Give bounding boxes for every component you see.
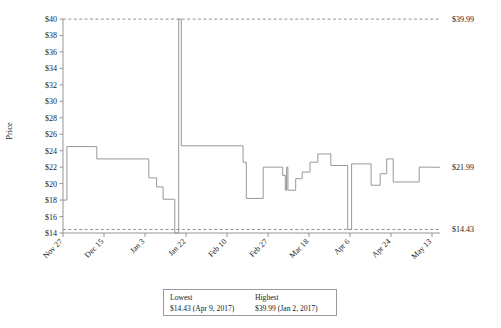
y-tick-label: $38 xyxy=(45,31,57,40)
side-value-labels: $39.99$14.43$21.99 xyxy=(452,15,474,234)
legend-highest-label: Highest xyxy=(255,292,318,303)
x-tick-label: Mar 18 xyxy=(288,237,311,260)
legend-lowest: Lowest $14.43 (Apr 9, 2017) xyxy=(170,292,234,314)
y-tick-label: $14 xyxy=(45,229,57,238)
chart-canvas: $14$16$18$20$22$24$26$28$30$32$34$36$38$… xyxy=(0,0,501,328)
x-tick-label: Feb 27 xyxy=(247,237,269,259)
y-tick-label: $30 xyxy=(45,97,57,106)
x-tick-label: Feb 10 xyxy=(206,237,228,259)
y-tick-label: $22 xyxy=(45,163,57,172)
y-axis-ticks: $14$16$18$20$22$24$26$28$30$32$34$36$38$… xyxy=(45,15,63,238)
legend-lowest-label: Lowest xyxy=(170,292,234,303)
y-tick-label: $34 xyxy=(45,64,57,73)
summary-legend-box: Lowest $14.43 (Apr 9, 2017) Highest $39.… xyxy=(163,289,337,316)
x-tick-label: Apr 24 xyxy=(370,237,392,259)
y-axis-title: Price xyxy=(4,122,14,140)
y-tick-label: $28 xyxy=(45,114,57,123)
x-tick-label: Dec 15 xyxy=(83,237,106,260)
x-tick-label: Jan 3 xyxy=(128,237,146,255)
x-tick-label: May 13 xyxy=(410,237,434,261)
legend-highest: Highest $39.99 (Jan 2, 2017) xyxy=(255,292,318,314)
x-tick-label: Jan 22 xyxy=(166,237,187,258)
y-tick-label: $20 xyxy=(45,180,57,189)
x-tick-label: Nov 27 xyxy=(41,237,64,260)
price-chart: $14$16$18$20$22$24$26$28$30$32$34$36$38$… xyxy=(0,0,501,328)
reference-value-label: $14.43 xyxy=(452,225,474,234)
y-tick-label: $26 xyxy=(45,130,57,139)
y-tick-label: $32 xyxy=(45,81,57,90)
y-tick-label: $18 xyxy=(45,196,57,205)
price-series xyxy=(63,19,440,233)
y-tick-label: $16 xyxy=(45,213,57,222)
legend-highest-value: $39.99 (Jan 2, 2017) xyxy=(255,303,318,314)
price-step-line xyxy=(63,19,440,233)
x-tick-label: Apr 6 xyxy=(332,237,351,256)
reference-value-label: $39.99 xyxy=(452,15,474,24)
reference-lines xyxy=(63,19,440,229)
y-tick-label: $24 xyxy=(45,147,57,156)
y-tick-label: $36 xyxy=(45,48,57,57)
x-axis-ticks: Nov 27Dec 15Jan 3Jan 22Feb 10Feb 27Mar 1… xyxy=(41,233,433,261)
y-tick-label: $40 xyxy=(45,15,57,24)
series-end-value-label: $21.99 xyxy=(452,163,474,172)
legend-lowest-value: $14.43 (Apr 9, 2017) xyxy=(170,303,234,314)
